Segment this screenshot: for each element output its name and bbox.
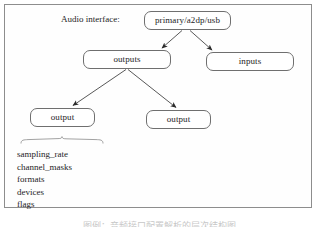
list-item: devices [17,186,72,199]
node-output-1[interactable]: output [30,108,95,127]
figure-screenshot: Audio interface: primary/a2dp/usb output… [0,0,319,227]
node-output-2[interactable]: output [146,110,211,129]
node-outputs-label: outputs [113,55,140,64]
node-output-2-label: output [167,115,191,124]
list-item: flags [17,198,72,211]
audio-interface-label: Audio interface: [61,14,120,24]
node-output-1-label: output [51,113,75,122]
node-inputs[interactable]: inputs [206,52,294,71]
list-item: formats [17,173,72,186]
list-item: channel_masks [17,161,72,174]
attribute-list: sampling_rate channel_masks formats devi… [17,148,72,211]
node-primary-a2dp-usb[interactable]: primary/a2dp/usb [144,11,231,30]
node-outputs[interactable]: outputs [83,50,171,69]
node-root-label: primary/a2dp/usb [155,16,220,25]
list-item: sampling_rate [17,148,72,161]
figure-caption: 图例：音频接口配置解析的层次结构图 [0,219,319,227]
node-inputs-label: inputs [239,57,262,66]
